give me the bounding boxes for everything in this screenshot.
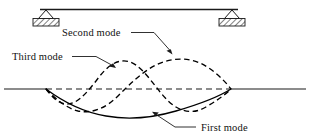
- third-mode-label: Third mode: [12, 51, 63, 62]
- second-mode-arrow-icon: [167, 49, 173, 54]
- third-mode-curve: [46, 61, 231, 112]
- third-mode-leader-line: [72, 57, 114, 67]
- second-mode-annotation: Second mode: [62, 27, 173, 55]
- second-mode-curve: [46, 59, 231, 112]
- right-support-triangle: [225, 10, 240, 19]
- first-mode-leader-line: [155, 114, 197, 128]
- second-mode-leader-line: [131, 33, 171, 52]
- left-support-ground-hatch: [33, 19, 59, 27]
- beam-assembly: [33, 10, 245, 27]
- second-mode-label: Second mode: [62, 27, 121, 38]
- third-mode-annotation: Third mode: [12, 51, 116, 68]
- right-pinned-support: [219, 10, 245, 26]
- first-mode-curve: [46, 89, 231, 118]
- figure-canvas: Second mode Third mode First mode: [0, 0, 311, 140]
- left-pinned-support: [33, 10, 59, 26]
- first-mode-annotation: First mode: [152, 112, 248, 133]
- mode-shape-figure: Second mode Third mode First mode: [0, 0, 311, 140]
- left-support-triangle: [39, 10, 54, 19]
- right-support-ground-hatch: [219, 19, 245, 27]
- first-mode-label: First mode: [201, 122, 248, 133]
